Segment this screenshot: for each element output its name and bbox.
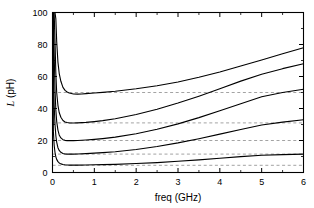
x-tick-label: 1 [92, 177, 97, 187]
data-curve-L1 [53, 13, 303, 95]
x-tick-label: 6 [301, 177, 306, 187]
x-tick-label: 4 [217, 177, 222, 187]
y-tick-label: 80 [37, 40, 47, 50]
y-tick-label: 40 [37, 104, 47, 114]
y-axis-label: L (pH) [5, 79, 16, 108]
x-tick-label: 3 [175, 177, 180, 187]
y-tick-label: 100 [32, 8, 47, 18]
data-curve-L2 [53, 13, 303, 124]
data-curve-L4 [53, 67, 303, 154]
y-tick-label: 20 [37, 136, 47, 146]
x-axis-label: freq (GHz) [155, 192, 202, 203]
data-curve-L5 [53, 131, 303, 165]
figure: 0123456020406080100freq (GHz)L (pH) [0, 0, 314, 208]
x-tick-label: 0 [50, 177, 55, 187]
chart-canvas: 0123456020406080100freq (GHz)L (pH) [0, 0, 314, 208]
y-axis-label-unit: (pH) [5, 79, 16, 101]
x-tick-label: 5 [259, 177, 264, 187]
y-tick-label: 0 [42, 168, 47, 178]
y-tick-label: 60 [37, 72, 47, 82]
x-tick-label: 2 [134, 177, 139, 187]
